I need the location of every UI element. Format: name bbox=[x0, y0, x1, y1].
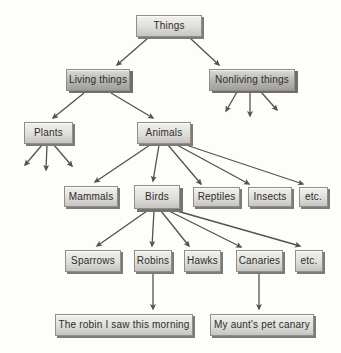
edge-plants-to-unlabeled bbox=[54, 145, 72, 166]
edge-animals-to-birds bbox=[153, 145, 159, 181]
node-canaries: Canaries bbox=[236, 250, 283, 272]
node-robins: Robins bbox=[134, 250, 172, 272]
edge-living_things-to-plants bbox=[53, 93, 84, 118]
node-etc-animals: etc. bbox=[299, 187, 328, 207]
edge-things-to-living_things bbox=[117, 38, 148, 65]
diagram-canvas: Things Living things Nonliving things Pl… bbox=[0, 0, 341, 353]
edge-birds-to-sparrows bbox=[97, 211, 147, 246]
node-things: Things bbox=[136, 15, 202, 37]
node-robin-instance: The robin I saw this morning bbox=[55, 314, 193, 336]
edge-birds-to-hawks bbox=[161, 211, 189, 246]
edge-animals-to-etc_animals bbox=[186, 145, 303, 184]
edge-birds-to-canaries bbox=[169, 211, 241, 247]
connector-arrows bbox=[0, 0, 341, 353]
edge-birds-to-etc_birds bbox=[177, 211, 300, 246]
edge-animals-to-mammals bbox=[95, 145, 150, 182]
edge-things-to-nonliving_things bbox=[190, 38, 219, 65]
edge-animals-to-reptiles bbox=[168, 145, 201, 184]
node-plants: Plants bbox=[24, 122, 73, 144]
node-birds: Birds bbox=[134, 185, 180, 209]
node-mammals: Mammals bbox=[64, 186, 118, 207]
node-nonliving-things: Nonliving things bbox=[209, 69, 295, 91]
edge-birds-to-robins bbox=[152, 211, 154, 246]
edge-living_things-to-animals bbox=[111, 93, 153, 118]
node-reptiles: Reptiles bbox=[193, 187, 240, 207]
node-hawks: Hawks bbox=[184, 250, 221, 272]
node-etc-birds: etc. bbox=[295, 250, 323, 272]
edge-nonliving_things-to-unlabeled bbox=[226, 92, 237, 111]
node-insects: Insects bbox=[248, 187, 292, 207]
node-sparrows: Sparrows bbox=[65, 250, 121, 272]
node-living-things: Living things bbox=[66, 69, 130, 91]
edge-animals-to-insects bbox=[177, 145, 249, 184]
edge-plants-to-unlabeled bbox=[25, 145, 42, 165]
edge-plants-to-unlabeled bbox=[46, 145, 47, 170]
node-animals: Animals bbox=[137, 122, 191, 144]
node-canary-instance: My aunt's pet canary bbox=[210, 314, 314, 336]
edge-nonliving_things-to-unlabeled bbox=[261, 92, 277, 110]
